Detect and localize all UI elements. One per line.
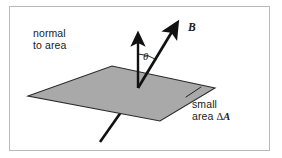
small-area-label-prefix: area (192, 110, 216, 122)
magnetic-field-vector-label: B (188, 21, 196, 34)
small-area-label: small area ΔA (192, 99, 230, 123)
flux-diagram-canvas (0, 0, 282, 158)
small-area-label-line2: area ΔA (192, 111, 230, 123)
figure-container: normal to area B θ small area ΔA (0, 0, 282, 158)
area-element-parallelogram (28, 66, 215, 121)
area-vector-symbol: A (223, 111, 230, 122)
normal-to-area-label-line1: normal (33, 28, 66, 40)
theta-angle-label: θ (143, 50, 149, 62)
normal-to-area-label: normal to area (33, 28, 66, 52)
normal-to-area-label-line2: to area (33, 40, 66, 52)
